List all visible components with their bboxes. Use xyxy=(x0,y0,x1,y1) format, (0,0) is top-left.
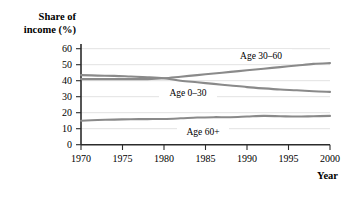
y-tick-label-30: 30 xyxy=(62,91,72,102)
series-line-age-60-plus xyxy=(81,116,330,121)
series-annotations: Age 30–60 Age 0–30 Age 60+ xyxy=(159,49,292,137)
line-chart: 60 50 40 30 20 10 0 1970 1975 1980 1985 … xyxy=(0,0,356,203)
series-label-age-0-30: Age 0–30 xyxy=(169,88,206,98)
y-tick-label-60: 60 xyxy=(62,43,72,54)
x-tick-label-1970: 1970 xyxy=(71,153,91,164)
x-tick-labels: 1970 1975 1980 1985 1990 1995 2000 xyxy=(71,153,340,164)
y-tick-label-40: 40 xyxy=(62,75,72,86)
y-tick-label-20: 20 xyxy=(62,107,72,118)
series-label-age-60-plus: Age 60+ xyxy=(186,127,219,137)
y-tick-label-0: 0 xyxy=(67,139,72,150)
y-tick-label-10: 10 xyxy=(62,123,72,134)
x-tick-label-1995: 1995 xyxy=(279,153,299,164)
chart-container: 60 50 40 30 20 10 0 1970 1975 1980 1985 … xyxy=(0,0,356,203)
series-label-age-30-60: Age 30–60 xyxy=(240,51,282,61)
y-axis-title-line2: income (%) xyxy=(24,24,77,36)
x-tick-label-2000: 2000 xyxy=(320,153,340,164)
y-tick-label-50: 50 xyxy=(62,59,72,70)
y-axis-title-line1: Share of xyxy=(39,11,77,22)
x-tick-label-1980: 1980 xyxy=(154,153,174,164)
x-axis-title: Year xyxy=(317,170,338,181)
x-tick-label-1990: 1990 xyxy=(237,153,257,164)
x-tick-label-1985: 1985 xyxy=(196,153,216,164)
x-tick-label-1975: 1975 xyxy=(113,153,133,164)
y-tick-labels: 60 50 40 30 20 10 0 xyxy=(62,43,72,150)
